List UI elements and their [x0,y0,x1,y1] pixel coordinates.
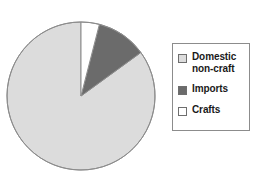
pie-chart-figure: Domestic non-craft Imports Crafts [0,0,265,192]
legend-item-imports: Imports [173,83,249,95]
legend-label-domestic-non-craft: Domestic non-craft [192,51,236,74]
legend-swatch-domestic-non-craft [178,54,187,63]
legend-label-imports: Imports [192,83,228,95]
legend-swatch-imports [178,86,187,95]
chart-legend: Domestic non-craft Imports Crafts [172,43,250,131]
legend-item-list: Domestic non-craft Imports Crafts [173,44,249,130]
legend-item-domestic-non-craft: Domestic non-craft [173,51,249,74]
legend-label-crafts: Crafts [192,104,220,116]
legend-swatch-crafts [178,107,187,116]
legend-item-crafts: Crafts [173,104,249,116]
